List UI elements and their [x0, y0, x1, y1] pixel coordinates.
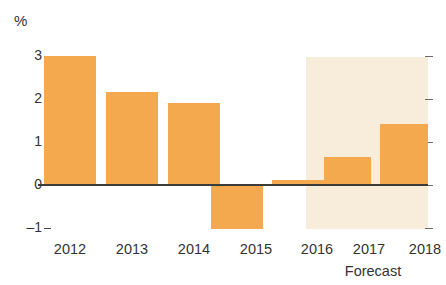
y-axis-tick-label-3: 3 — [34, 47, 42, 63]
x-axis-label-2015: 2015 — [224, 242, 288, 257]
x-axis-label-2017: 2017 — [340, 242, 398, 257]
x-axis-label-2012: 2012 — [38, 242, 102, 257]
y-axis-tick-label-2: 2 — [34, 90, 42, 106]
bar-2017 — [324, 157, 371, 185]
y-axis-unit-label: % — [14, 12, 27, 29]
y-axis-tick-1: 1 — [8, 134, 42, 148]
right-axis-tick-2 — [425, 99, 433, 100]
y-axis-tick-label-minus1: –1 — [26, 219, 42, 235]
bar-2015 — [211, 186, 263, 229]
right-axis-tick-3 — [425, 56, 433, 57]
zero-baseline-axis — [38, 184, 428, 186]
y-axis-tick-2: 2 — [8, 91, 42, 105]
y-axis-tick-dash-minus1 — [44, 228, 51, 229]
y-axis-tick-0: 0 — [8, 177, 42, 191]
x-axis-label-2018: 2018 — [396, 242, 446, 257]
y-axis-tick-label-1: 1 — [34, 133, 42, 149]
forecast-caption: Forecast — [318, 264, 428, 279]
x-axis-label-2013: 2013 — [100, 242, 164, 257]
y-axis-tick-3: 3 — [8, 48, 42, 62]
x-axis-label-2014: 2014 — [162, 242, 226, 257]
bar-2013 — [106, 92, 158, 185]
bar-2014 — [168, 103, 220, 185]
right-axis-tick-minus1 — [425, 228, 433, 229]
bar-2018 — [380, 124, 428, 185]
y-axis-tick-minus1: –1 — [8, 220, 42, 234]
bar-2012 — [44, 56, 96, 185]
